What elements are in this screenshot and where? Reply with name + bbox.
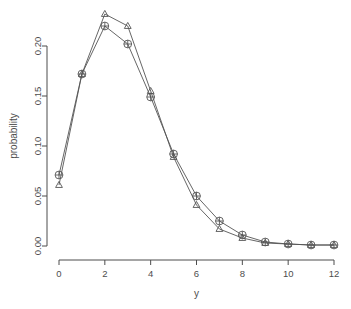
x-tick-label-0: 0 [56,268,61,279]
x-tick-label-12: 12 [329,268,340,279]
x-tick-label-8: 8 [240,268,245,279]
x-axis-title: y [194,288,199,299]
y-axis-title: probability [8,113,19,159]
marker-circle-plus-x2 [101,22,109,30]
marker-circle-plus-x3 [124,40,132,48]
probability-distribution-chart: 0246810120.000.050.100.150.20yprobabilit… [0,0,351,309]
chart-container: 0246810120.000.050.100.150.20yprobabilit… [0,0,351,309]
marker-circle-plus-x7 [216,217,224,225]
x-tick-label-2: 2 [102,268,107,279]
y-tick-label-0.05: 0.05 [32,187,43,206]
y-tick-label-0.10: 0.10 [32,137,43,156]
y-tick-label-0.20: 0.20 [32,37,43,56]
x-tick-label-10: 10 [283,268,294,279]
y-tick-label-0.15: 0.15 [32,87,43,106]
y-tick-label-0.00: 0.00 [32,237,43,256]
x-tick-label-4: 4 [148,268,153,279]
chart-background [0,0,351,309]
x-tick-label-6: 6 [194,268,199,279]
